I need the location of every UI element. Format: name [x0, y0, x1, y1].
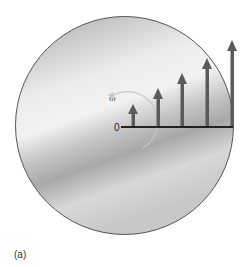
disk: [16, 17, 234, 235]
origin-label: 0: [114, 122, 120, 133]
angular-velocity-label: ω: [109, 94, 116, 103]
rotating-disk-diagram: 0 ω: [0, 0, 247, 267]
figure-caption: (a): [14, 249, 26, 260]
